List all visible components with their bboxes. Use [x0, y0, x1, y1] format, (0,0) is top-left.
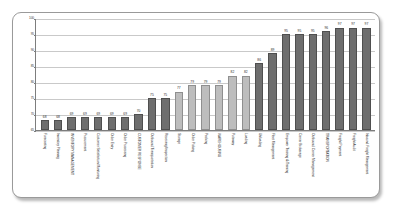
- bar[interactable]: [255, 63, 263, 130]
- bar[interactable]: [81, 117, 89, 130]
- bar-cell: 69: [92, 19, 105, 130]
- bar-value-label: 69: [70, 113, 74, 116]
- bar-cell: 97: [346, 19, 359, 130]
- bar[interactable]: [282, 34, 290, 130]
- chart-frame: 65707580859095100 6868696969696970757577…: [12, 12, 380, 198]
- bar[interactable]: [201, 85, 209, 130]
- bar-value-label: 68: [56, 116, 60, 119]
- x-label-cell: Putaway: [225, 132, 238, 194]
- bar-value-label: 82: [231, 71, 235, 74]
- x-axis-label: Forecasting: [42, 133, 45, 149]
- bar-cell: 95: [293, 19, 306, 130]
- plot-area: 6868696969696970757577797979828286899595…: [35, 19, 375, 131]
- bar-value-label: 79: [217, 81, 221, 84]
- bar-value-label: 79: [190, 81, 194, 84]
- bar-cell: 70: [132, 19, 145, 130]
- bar[interactable]: [161, 98, 169, 130]
- x-label-cell: Freight Payment: [333, 132, 346, 194]
- x-axis-label: Fleet Management: [270, 133, 273, 159]
- x-label-cell: Freight Audit: [346, 132, 359, 194]
- x-axis-label: TRANSPORTATION: [324, 133, 327, 162]
- bar-cell: 97: [333, 19, 346, 130]
- bar-cell: 69: [78, 19, 91, 130]
- x-axis-label: Order Picking: [190, 133, 193, 152]
- x-label-cell: Order Processing: [118, 132, 131, 194]
- bar[interactable]: [322, 31, 330, 130]
- x-axis-label: Packing: [203, 133, 206, 144]
- x-axis-label: Unloading: [257, 133, 260, 147]
- bar-value-label: 89: [271, 49, 275, 52]
- x-axis-label: Putaway: [230, 133, 233, 145]
- bar-value-label: 97: [351, 23, 355, 26]
- x-label-cell: Customer Satisfaction Monitoring: [91, 132, 104, 194]
- x-axis-label: Empower Training & Training: [284, 133, 287, 173]
- x-axis-label: WAREHOUSING: [217, 133, 220, 157]
- y-axis-tick-labels: 65707580859095100: [17, 19, 34, 131]
- bar-value-label: 95: [298, 30, 302, 33]
- bar-cell: 69: [118, 19, 131, 130]
- bar[interactable]: [215, 85, 223, 130]
- bar-value-label: 82: [244, 71, 248, 74]
- bar-value-label: 96: [324, 27, 328, 30]
- bar-cell: 68: [38, 19, 51, 130]
- bar[interactable]: [242, 76, 250, 130]
- bar[interactable]: [335, 28, 343, 130]
- bar-value-label: 69: [96, 113, 100, 116]
- x-label-cell: Outbound Transportation: [145, 132, 158, 194]
- bar[interactable]: [94, 117, 102, 130]
- bar-cell: 95: [306, 19, 319, 130]
- bar[interactable]: [54, 120, 62, 130]
- x-axis-label: Loading: [244, 133, 247, 144]
- x-label-cell: Empower Training & Training: [279, 132, 292, 194]
- bar-value-label: 79: [204, 81, 208, 84]
- bar[interactable]: [175, 92, 183, 130]
- bar[interactable]: [309, 34, 317, 130]
- bar[interactable]: [121, 117, 129, 130]
- bar-cell: 75: [145, 19, 158, 130]
- bar[interactable]: [349, 28, 357, 130]
- x-axis-label: Outbound Carrier Management: [311, 133, 314, 176]
- bar-value-label: 95: [311, 30, 315, 33]
- bar-value-label: 95: [284, 30, 288, 33]
- bar[interactable]: [148, 98, 156, 130]
- chart-plot-wrapper: 65707580859095100 6868696969696970757577…: [13, 13, 379, 197]
- bar-cell: 82: [226, 19, 239, 130]
- bar[interactable]: [295, 34, 303, 130]
- bar-cell: 82: [239, 19, 252, 130]
- bar[interactable]: [67, 117, 75, 130]
- bar[interactable]: [188, 85, 196, 130]
- bar[interactable]: [268, 53, 276, 130]
- bar[interactable]: [41, 120, 49, 130]
- bar-cell: 69: [65, 19, 78, 130]
- bar-value-label: 69: [83, 113, 87, 116]
- x-axis-label: Order Processing: [123, 133, 126, 157]
- x-axis-category-labels: ForecastingInventory PlanningINVENTORY M…: [35, 132, 375, 194]
- x-label-cell: Carrier Brokerage: [292, 132, 305, 194]
- bar[interactable]: [108, 117, 116, 130]
- bar[interactable]: [362, 28, 370, 130]
- bar[interactable]: [134, 114, 142, 130]
- x-label-cell: Receiving/Inspection: [158, 132, 171, 194]
- x-label-cell: Packing: [198, 132, 211, 194]
- bar[interactable]: [228, 76, 236, 130]
- x-axis-label: INVENTORY MANAGEMENT: [69, 133, 72, 175]
- bar-cell: 95: [279, 19, 292, 130]
- bar-value-label: 69: [110, 113, 114, 116]
- bar-cell: 96: [320, 19, 333, 130]
- bar-value-label: 69: [123, 113, 127, 116]
- bar-cell: 79: [199, 19, 212, 130]
- x-label-cell: Order Picking: [185, 132, 198, 194]
- bar-cell: 69: [105, 19, 118, 130]
- x-label-cell: Forecasting: [37, 132, 50, 194]
- x-axis-label: Freight Audit: [351, 133, 354, 150]
- x-label-cell: Loading: [239, 132, 252, 194]
- x-axis-label: Customer Satisfaction Monitoring: [96, 133, 99, 179]
- x-label-cell: Fleet Management: [265, 132, 278, 194]
- x-axis-label: Outbound Transportation: [150, 133, 153, 168]
- bar-cell: 86: [253, 19, 266, 130]
- x-axis-label: Order Entry: [109, 133, 112, 149]
- x-axis-label: Receiving/Inspection: [163, 133, 166, 162]
- x-label-cell: Outbound Carrier Management: [306, 132, 319, 194]
- bar-value-label: 97: [365, 23, 369, 26]
- x-axis-label: Carrier Brokerage: [297, 133, 300, 158]
